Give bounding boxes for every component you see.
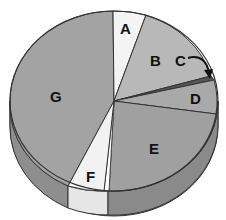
slice-e <box>109 101 216 191</box>
label-b: B <box>150 52 161 69</box>
label-g: G <box>50 88 62 105</box>
label-c: C <box>175 52 186 69</box>
label-d: D <box>190 90 201 107</box>
pie-top-face <box>10 11 218 191</box>
label-f: F <box>86 168 95 185</box>
pie-chart: A B C D E F G <box>0 0 226 220</box>
pie-chart-svg: A B C D E F G <box>0 0 226 220</box>
label-a: A <box>120 20 131 37</box>
label-e: E <box>149 140 159 157</box>
